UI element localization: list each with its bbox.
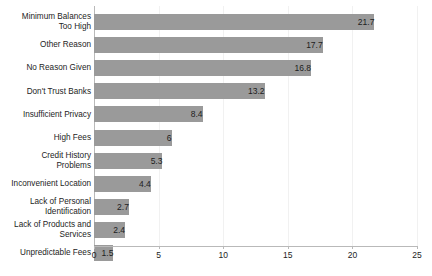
bar-value-label: 16.8 <box>94 60 315 76</box>
category-label: Don't Trust Banks <box>0 87 91 97</box>
bar-value-label: 13.2 <box>94 83 269 99</box>
bar-row[interactable]: 2.7 <box>94 199 417 215</box>
bar-row[interactable]: 6 <box>94 130 417 146</box>
bar-row[interactable]: 21.7 <box>94 14 417 30</box>
bar-row[interactable]: 4.4 <box>94 176 417 192</box>
category-label: Credit History Problems <box>0 151 91 170</box>
x-tick-label: 10 <box>208 250 238 261</box>
bar-value-label: 2.7 <box>94 199 133 215</box>
bar-row[interactable]: 17.7 <box>94 37 417 53</box>
bar-row[interactable]: 13.2 <box>94 83 417 99</box>
bar-value-label: 6 <box>94 130 176 146</box>
bar-value-label: 17.7 <box>94 37 327 53</box>
bar-value-label: 8.4 <box>94 106 207 122</box>
category-label: Minimum Balances Too High <box>0 12 91 31</box>
category-label: High Fees <box>0 133 91 143</box>
bar-row[interactable]: 5.3 <box>94 153 417 169</box>
x-tick-0 <box>94 246 95 249</box>
x-tick-label: 15 <box>273 250 303 261</box>
bar-series: 21.717.716.813.28.465.34.42.72.41.5 <box>94 6 417 246</box>
category-label: Unpredictable Fees <box>0 248 91 258</box>
x-tick-10 <box>223 246 224 249</box>
bar-value-label: 21.7 <box>94 14 378 30</box>
bar-value-label: 5.3 <box>94 153 166 169</box>
plot-area: 21.717.716.813.28.465.34.42.72.41.5 <box>94 6 417 246</box>
x-tick-label: 0 <box>79 250 109 261</box>
category-label: Inconvenient Location <box>0 179 91 189</box>
category-label: Lack of Personal Identification <box>0 197 91 216</box>
bar-value-label: 2.4 <box>94 222 129 238</box>
x-tick-5 <box>159 246 160 249</box>
x-tick-25 <box>417 246 418 249</box>
x-tick-label: 5 <box>144 250 174 261</box>
bar-row[interactable]: 1.5 <box>94 245 417 261</box>
category-label: Insufficient Privacy <box>0 110 91 120</box>
x-tick-15 <box>288 246 289 249</box>
bar-row[interactable]: 16.8 <box>94 60 417 76</box>
category-label: Other Reason <box>0 40 91 50</box>
category-axis-labels: Minimum Balances Too HighOther ReasonNo … <box>0 6 91 246</box>
bar-row[interactable]: 2.4 <box>94 222 417 238</box>
bar-row[interactable]: 8.4 <box>94 106 417 122</box>
x-tick-20 <box>352 246 353 249</box>
bar-chart: Minimum Balances Too HighOther ReasonNo … <box>0 0 432 276</box>
category-label: No Reason Given <box>0 63 91 73</box>
gridline-25 <box>417 6 418 246</box>
x-axis-line <box>94 246 417 247</box>
x-tick-label: 20 <box>337 250 367 261</box>
x-tick-label: 25 <box>402 250 432 261</box>
category-label: Lack of Products and Services <box>0 220 91 239</box>
bar-value-label: 4.4 <box>94 176 155 192</box>
